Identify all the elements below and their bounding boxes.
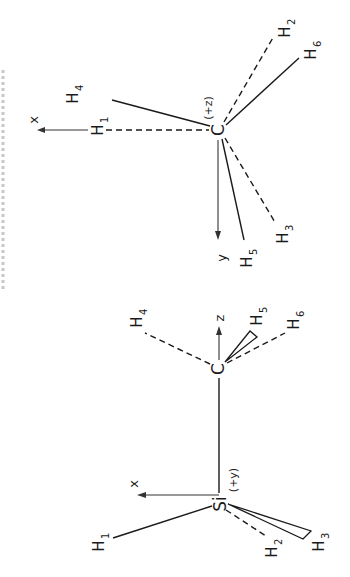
label-h6-lower: H 6 (285, 311, 306, 330)
svg-text:H: H (302, 48, 320, 59)
svg-text:H: H (128, 316, 146, 327)
bond-c-h4 (112, 100, 210, 126)
label-h5-lower: H 5 (248, 307, 269, 326)
upper-molecule: x y C (+z) H 1 H 4 H 2 H 6 H 5 H (26, 19, 323, 268)
axis-label-z: z (212, 314, 227, 321)
atom-c-upper: C (208, 124, 228, 136)
atom-c-upper-note: (+z) (202, 96, 215, 120)
svg-text:H: H (90, 540, 108, 551)
atom-c-lower: C (208, 363, 228, 375)
svg-text:6: 6 (312, 41, 323, 47)
svg-text:1: 1 (100, 533, 111, 539)
wedge-si-h3 (228, 504, 311, 539)
axis-label-x-lower: x (126, 480, 141, 488)
svg-text:2: 2 (273, 539, 284, 545)
svg-text:H: H (64, 92, 82, 103)
label-h4-upper: H 4 (64, 85, 85, 104)
svg-text:1: 1 (99, 117, 110, 123)
label-h3-upper: H 3 (274, 225, 295, 244)
label-h2-lower: H 2 (263, 539, 284, 558)
bond-c-h2 (224, 36, 274, 122)
bond-c-h4 (145, 333, 210, 364)
label-h6-upper: H 6 (302, 41, 323, 60)
bond-c-h5 (222, 139, 244, 240)
wedge-c-h5 (225, 331, 257, 362)
label-h1-lower: H 1 (90, 533, 111, 552)
label-h3-lower: H 3 (310, 533, 331, 552)
x-axis-arrow (37, 127, 88, 133)
bond-si-h1 (113, 506, 212, 538)
atom-si: Si (210, 496, 230, 512)
svg-text:H: H (263, 546, 281, 557)
svg-text:H: H (285, 318, 303, 329)
x-axis-arrow-lower (137, 492, 219, 498)
svg-text:H: H (89, 124, 107, 135)
svg-text:4: 4 (138, 309, 149, 315)
axis-label-y: y (214, 254, 229, 262)
svg-text:4: 4 (74, 85, 85, 91)
atom-si-note: (+y) (227, 468, 240, 492)
bond-c-h3 (225, 138, 276, 224)
label-h2-upper: H 2 (276, 19, 297, 38)
molecular-geometry-diagram: x y C (+z) H 1 H 4 H 2 H 6 H 5 H (0, 0, 350, 577)
svg-text:3: 3 (284, 225, 295, 231)
svg-text:H: H (248, 314, 266, 325)
label-h4-lower: H 4 (128, 309, 149, 328)
svg-text:H: H (274, 232, 292, 243)
svg-text:H: H (310, 540, 328, 551)
svg-text:3: 3 (320, 533, 331, 539)
y-axis-arrow (215, 140, 221, 240)
svg-text:5: 5 (258, 307, 269, 313)
z-axis-arrow (216, 326, 222, 360)
svg-text:6: 6 (295, 311, 306, 317)
bond-c-h6 (226, 58, 299, 125)
svg-text:2: 2 (286, 19, 297, 25)
label-h1-upper: H 1 (89, 117, 110, 136)
lower-molecule: z x C Si (+y) H 1 H 2 H 3 H 4 H 5 (90, 307, 331, 558)
svg-text:H: H (238, 256, 256, 267)
axis-label-x: x (26, 116, 41, 124)
svg-text:5: 5 (248, 249, 259, 255)
svg-text:H: H (276, 26, 294, 37)
label-h5-upper: H 5 (238, 249, 259, 268)
